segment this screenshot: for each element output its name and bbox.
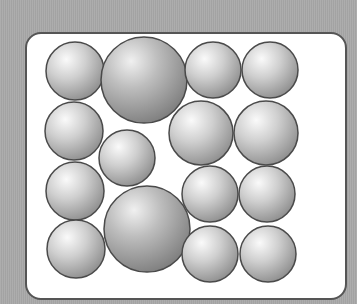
small-sphere (239, 166, 295, 222)
small-sphere (185, 42, 241, 98)
small-sphere (47, 220, 105, 278)
large-sphere (104, 186, 190, 272)
small-sphere (45, 102, 103, 160)
large-sphere (101, 37, 187, 123)
small-sphere (99, 130, 155, 186)
small-sphere (46, 42, 104, 100)
small-sphere (46, 162, 104, 220)
small-sphere (240, 226, 296, 282)
sphere-group (45, 37, 298, 282)
small-sphere (182, 226, 238, 282)
small-sphere (169, 101, 233, 165)
small-sphere (242, 42, 298, 98)
small-sphere (234, 101, 298, 165)
spheres-diagram (0, 0, 357, 304)
small-sphere (182, 166, 238, 222)
